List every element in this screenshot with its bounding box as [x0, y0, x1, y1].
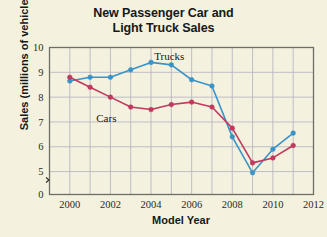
y-tick-labels: 05678910: [33, 42, 44, 200]
svg-text:5: 5: [38, 166, 43, 177]
svg-text:9: 9: [38, 67, 43, 78]
svg-text:6: 6: [38, 141, 43, 152]
svg-text:2008: 2008: [222, 199, 243, 210]
series-annotation-trucks: Trucks: [154, 50, 184, 62]
axis-lines: [46, 48, 314, 195]
svg-text:10: 10: [33, 42, 44, 53]
svg-text:2002: 2002: [100, 199, 121, 210]
svg-text:0: 0: [38, 189, 43, 200]
x-tick-labels: 2000200220042006200820102012: [59, 199, 324, 210]
svg-text:2006: 2006: [181, 199, 202, 210]
svg-text:2010: 2010: [262, 199, 283, 210]
chart-figure: New Passenger Car and Light Truck Sales …: [0, 0, 327, 237]
series-annotation-cars: Cars: [96, 112, 116, 124]
plot-area: 05678910 2000200220042006200820102012 Tr…: [0, 0, 327, 237]
svg-text:7: 7: [38, 117, 43, 128]
gridlines: [50, 48, 314, 195]
svg-text:8: 8: [38, 92, 43, 103]
svg-text:2000: 2000: [59, 199, 80, 210]
svg-text:2012: 2012: [303, 199, 324, 210]
svg-text:2004: 2004: [141, 199, 163, 210]
